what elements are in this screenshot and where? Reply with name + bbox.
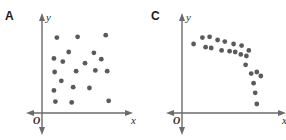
data-point — [227, 49, 232, 54]
data-point — [105, 69, 110, 74]
data-point — [233, 50, 238, 55]
panel-a-plot — [0, 0, 143, 140]
data-point — [215, 38, 220, 43]
data-point — [249, 71, 254, 76]
data-point — [219, 48, 224, 53]
data-point — [246, 48, 251, 53]
y-axis-arrow-up-c — [179, 13, 185, 21]
data-point — [231, 42, 236, 47]
data-point — [52, 88, 57, 93]
data-point — [75, 34, 80, 39]
data-point — [71, 85, 76, 90]
data-point — [258, 74, 263, 79]
data-point — [99, 57, 104, 62]
data-point — [69, 100, 74, 105]
panel-c: C y x O — [143, 0, 286, 140]
data-point — [239, 43, 244, 48]
data-point — [200, 35, 205, 40]
data-point — [209, 46, 214, 51]
data-point — [66, 50, 71, 55]
data-point — [207, 34, 212, 39]
data-point — [243, 62, 248, 67]
data-point — [52, 56, 57, 61]
origin-label-c: O — [173, 116, 180, 126]
data-points-a — [52, 33, 112, 105]
panel-c-plot — [143, 0, 286, 140]
data-point — [74, 69, 79, 74]
y-axis-label-a: y — [46, 12, 51, 23]
data-point — [106, 98, 111, 103]
data-point — [60, 59, 65, 64]
data-point — [254, 70, 259, 75]
panel-a-label: A — [5, 10, 14, 22]
y-axis-arrow-up-a — [39, 13, 45, 21]
y-axis-arrow-down-a — [39, 127, 45, 135]
panel-a: A y x O — [0, 0, 143, 140]
scatter-plot-figure: A y x O C y — [0, 0, 286, 140]
data-point — [87, 86, 92, 91]
data-point — [253, 90, 258, 95]
data-point — [59, 78, 64, 83]
panel-c-label: C — [151, 10, 160, 22]
data-point — [54, 35, 59, 40]
data-point — [103, 33, 108, 38]
x-axis-label-a: x — [131, 115, 136, 126]
data-point — [203, 45, 208, 50]
data-point — [93, 68, 98, 73]
data-point — [254, 102, 259, 107]
data-point — [222, 39, 227, 44]
data-point — [251, 81, 256, 86]
y-axis-arrow-down-c — [179, 127, 185, 135]
data-point — [244, 54, 249, 59]
y-axis-label-c: y — [186, 12, 191, 23]
data-point — [52, 70, 57, 75]
origin-label-a: O — [33, 116, 40, 126]
data-point — [83, 61, 88, 66]
data-point — [53, 99, 58, 104]
data-point — [91, 50, 96, 55]
data-points-c — [191, 34, 263, 106]
x-axis-label-c: x — [282, 115, 286, 126]
data-point — [238, 52, 243, 57]
data-point — [191, 42, 196, 47]
